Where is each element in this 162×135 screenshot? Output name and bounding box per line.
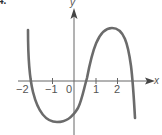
x-tick-label: 1: [93, 84, 99, 95]
x-tick-label: −1: [45, 84, 58, 95]
x-tick-label: 2: [114, 84, 120, 95]
x-tick-label: −2: [16, 84, 29, 95]
function-curve: [28, 28, 135, 122]
x-axis-label: x: [154, 76, 159, 86]
function-graph: [0, 0, 162, 135]
y-axis-label: y: [70, 0, 75, 8]
x-tick-label: 0: [66, 84, 72, 95]
